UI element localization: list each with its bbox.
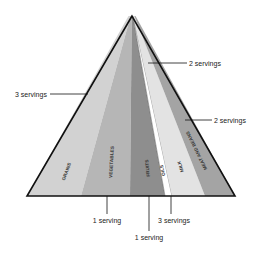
- callout-milk: 2 servings: [189, 60, 221, 68]
- callout-grains: 3 servings: [15, 91, 47, 99]
- callout-vegetables: 1 serving: [93, 217, 122, 225]
- food-pyramid-diagram: GRAINS VEGETABLES FRUITS OILS MILK MEAT …: [0, 0, 265, 258]
- callout-fruits: 1 serving: [135, 234, 164, 242]
- callout-oils: 3 servings: [158, 217, 190, 225]
- callout-meat-and-beans: 2 servings: [214, 117, 246, 125]
